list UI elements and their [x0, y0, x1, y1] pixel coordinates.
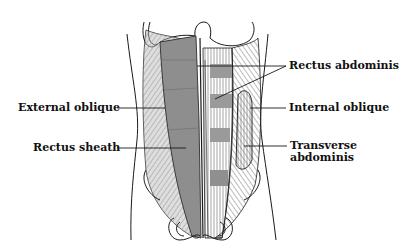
label-transverse-abdominis-line2: abdominis	[290, 152, 354, 164]
label-rectus-sheath: Rectus sheath	[33, 142, 120, 154]
label-rectus-abdominis: Rectus abdominis	[289, 60, 399, 72]
label-external-oblique: External oblique	[18, 102, 120, 114]
label-internal-oblique: Internal oblique	[289, 102, 389, 114]
transverse-abdominis-muscle	[236, 91, 252, 169]
abdominal-muscles-illustration	[0, 0, 412, 245]
